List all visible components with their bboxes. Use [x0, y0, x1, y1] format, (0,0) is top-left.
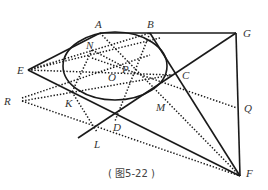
dot-R-F: [22, 101, 240, 176]
figure-caption: ( 图5-22 ): [108, 168, 155, 179]
geometry-diagram: A B G E R N P O C K M Q D L F ( 图5-22 ): [0, 0, 268, 190]
label-M: M: [155, 101, 166, 113]
label-B: B: [147, 18, 154, 30]
label-Q: Q: [244, 102, 252, 114]
dot-B-D: [115, 33, 150, 121]
label-P: P: [121, 63, 129, 75]
label-R: R: [3, 95, 11, 107]
dot-E-P: [28, 38, 160, 70]
label-K: K: [64, 97, 73, 109]
label-E: E: [16, 64, 24, 76]
label-C: C: [182, 69, 190, 81]
line-G-F: [236, 33, 240, 176]
dotted-lines: [22, 33, 240, 176]
dot-E-C: [28, 70, 172, 75]
solid-lines: [28, 33, 240, 176]
label-L: L: [93, 138, 100, 150]
label-D: D: [112, 121, 121, 133]
label-G: G: [243, 27, 251, 39]
label-F: F: [245, 167, 253, 179]
label-N: N: [85, 39, 94, 51]
label-A: A: [94, 18, 102, 30]
label-O: O: [108, 71, 116, 83]
line-G-L: [78, 33, 236, 138]
